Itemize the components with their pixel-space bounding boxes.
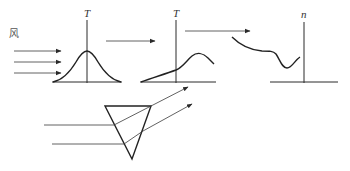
refraction-diagram: 风 T T n <box>0 0 350 171</box>
wind-label: 风 <box>9 28 19 39</box>
panel-3-index-curve <box>232 37 300 68</box>
prism-triangle <box>105 106 151 159</box>
panel-2-axis-label: T <box>173 7 180 19</box>
refracted-ray-1 <box>151 87 188 106</box>
prism-group <box>44 87 192 159</box>
panel-1-axis-label: T <box>84 7 91 19</box>
panel-3-refractive-index-profile: n <box>232 8 338 83</box>
panel-1-temperature-profile: T <box>52 7 122 83</box>
wind-group: 风 <box>9 28 61 73</box>
panel-3-axis-label: n <box>301 8 307 20</box>
panel-2-temperature-profile: T <box>140 7 216 83</box>
panel-2-skewed-curve <box>141 54 214 82</box>
